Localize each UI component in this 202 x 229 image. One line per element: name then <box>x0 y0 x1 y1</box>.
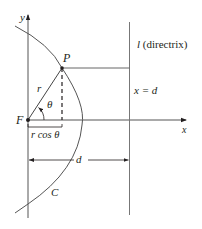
radius-label: r <box>37 82 42 94</box>
focus-label: F <box>15 113 24 127</box>
directrix-text: (directrix) <box>143 38 188 51</box>
distance-label: d <box>76 153 82 165</box>
conic-diagram: y x P F r θ r cos θ d C l (directrix) x … <box>0 0 202 229</box>
rcos-bracket <box>28 124 62 127</box>
angle-label: θ <box>47 98 53 110</box>
directrix-label: l (directrix) <box>137 38 188 51</box>
focus-point <box>26 118 30 122</box>
radius-line <box>28 68 62 120</box>
point-p-label: P <box>62 51 71 65</box>
x-axis-label: x <box>181 124 187 135</box>
point-p <box>60 66 64 70</box>
y-axis-label: y <box>19 11 25 23</box>
curve-label: C <box>51 186 59 198</box>
angle-arc <box>39 108 45 121</box>
directrix-letter: l <box>137 38 140 50</box>
directrix-equation: x = d <box>133 84 158 96</box>
projection-label: r cos θ <box>31 129 60 140</box>
